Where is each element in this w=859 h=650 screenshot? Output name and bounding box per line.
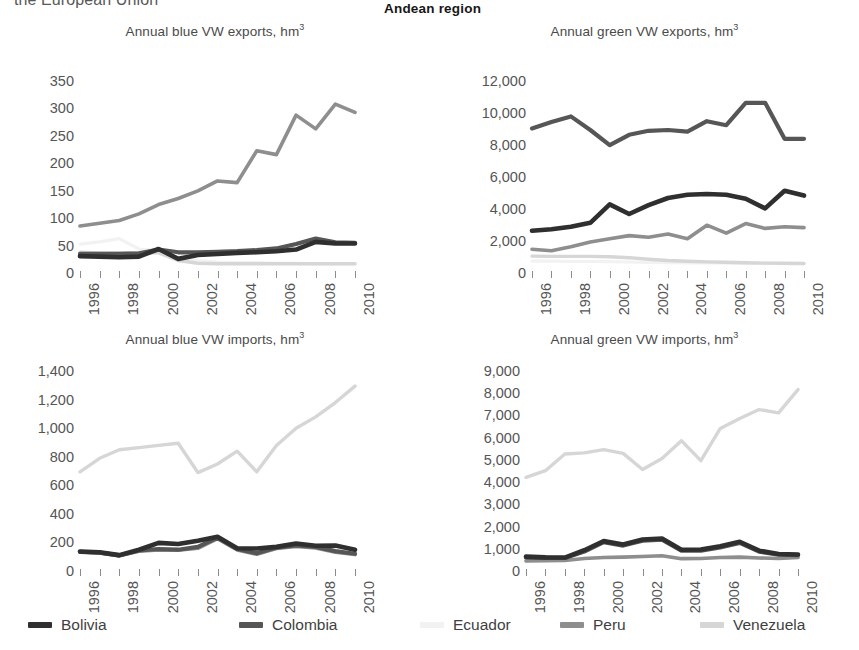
x-axis-tick: [80, 569, 81, 576]
x-axis-tick: [80, 271, 81, 278]
x-axis-year-label: 1996: [86, 581, 102, 613]
x-axis-year-label: 2008: [322, 283, 338, 315]
plot-area-green-exports: [532, 74, 804, 266]
x-axis-ticks-green-exports: [532, 271, 804, 280]
x-axis-tick: [687, 271, 688, 278]
x-axis-year-label: 2008: [771, 283, 787, 315]
x-axis-year-label: 2000: [616, 283, 632, 315]
x-axis-tick: [100, 271, 101, 278]
x-axis-tick: [740, 569, 741, 576]
x-axis-tick: [316, 271, 317, 278]
x-axis-year-label: 2006: [282, 581, 298, 613]
series-line-venezuela: [80, 386, 355, 472]
legend-item-venezuela[interactable]: Venezuela: [700, 616, 805, 634]
x-axis-tick: [296, 569, 297, 576]
x-axis-year-label: 2008: [765, 581, 781, 613]
x-axis-year-label: 1998: [577, 283, 593, 315]
x-axis-tick: [139, 569, 140, 576]
chart-title-blue-imports: Annual blue VW imports, hm3: [0, 330, 430, 347]
x-axis-tick: [662, 569, 663, 576]
x-axis-tick: [565, 569, 566, 576]
legend-label: Ecuador: [453, 616, 511, 634]
chart-page: the European Union Andean region Annual …: [0, 0, 859, 650]
x-axis-tick: [198, 569, 199, 576]
unit-superscript: 3: [733, 330, 738, 340]
x-axis-year-label: 2008: [322, 581, 338, 613]
x-axis-tick: [532, 271, 533, 278]
series-line-colombia: [532, 103, 804, 145]
x-axis-tick: [316, 569, 317, 576]
x-axis-year-label: 2000: [610, 581, 626, 613]
x-axis-tick: [649, 271, 650, 278]
x-axis-tick: [257, 271, 258, 278]
plot-area-blue-imports: [80, 364, 355, 564]
chart-legend: BoliviaColombiaEcuadorPeruVenezuela: [0, 616, 859, 646]
legend-swatch-icon: [560, 622, 584, 628]
x-axis-tick: [785, 271, 786, 278]
x-axis-year-label: 2002: [204, 283, 220, 315]
x-axis-year-label: 2000: [165, 581, 181, 613]
x-axis-tick: [804, 271, 805, 278]
x-axis-ticks-green-imports: [526, 569, 798, 578]
legend-label: Colombia: [272, 616, 337, 634]
x-axis-tick: [218, 569, 219, 576]
series-line-bolivia: [532, 191, 804, 231]
x-axis-tick: [590, 271, 591, 278]
series-line-venezuela: [526, 390, 798, 478]
x-axis-year-label: 2006: [282, 283, 298, 315]
x-axis-year-label: 2004: [687, 581, 703, 613]
legend-item-peru[interactable]: Peru: [560, 616, 626, 634]
unit-superscript: 3: [299, 22, 304, 32]
x-axis-year-label: 1998: [125, 581, 141, 613]
x-axis-tick: [668, 271, 669, 278]
y-axis-labels-blue-exports: 350300250200150100500: [8, 74, 74, 266]
x-axis-tick: [159, 569, 160, 576]
x-axis-tick: [119, 271, 120, 278]
legend-label: Peru: [593, 616, 626, 634]
y-axis-labels-blue-imports: 1,4001,2001,0008006004002000: [4, 364, 74, 564]
legend-item-colombia[interactable]: Colombia: [239, 616, 337, 634]
x-axis-tick: [720, 569, 721, 576]
x-axis-tick: [355, 271, 356, 278]
x-axis-tick: [610, 271, 611, 278]
x-axis-year-label: 2002: [204, 581, 220, 613]
x-axis-tick: [551, 271, 552, 278]
x-axis-tick: [296, 271, 297, 278]
x-axis-tick: [119, 569, 120, 576]
legend-item-bolivia[interactable]: Bolivia: [28, 616, 107, 634]
x-axis-tick: [779, 569, 780, 576]
legend-label: Venezuela: [733, 616, 805, 634]
series-line-peru: [80, 104, 355, 226]
legend-label: Bolivia: [61, 616, 107, 634]
x-axis-tick: [139, 271, 140, 278]
x-axis-tick: [584, 569, 585, 576]
x-axis-tick: [355, 569, 356, 576]
x-axis-tick: [571, 271, 572, 278]
x-axis-tick: [276, 569, 277, 576]
page-header-region-title: Andean region: [384, 1, 481, 16]
x-axis-year-label: 1996: [86, 283, 102, 315]
x-axis-tick: [178, 569, 179, 576]
x-axis-year-label: 1998: [571, 581, 587, 613]
x-axis-tick: [726, 271, 727, 278]
legend-swatch-icon: [420, 622, 444, 628]
x-axis-year-label: 2006: [732, 283, 748, 315]
chart-title-green-imports: Annual green VW imports, hm3: [430, 330, 859, 347]
x-axis-ticks-blue-imports: [80, 569, 355, 578]
x-axis-year-label: 2004: [243, 283, 259, 315]
chart-panel-blue-exports: Annual blue VW exports, hm33503002502001…: [0, 22, 430, 322]
legend-swatch-icon: [239, 622, 263, 628]
x-axis-tick: [218, 271, 219, 278]
x-axis-tick: [335, 271, 336, 278]
x-axis-tick: [526, 569, 527, 576]
y-axis-labels-green-imports: 9,0008,0007,0006,0005,0004,0003,0002,000…: [432, 364, 520, 564]
x-axis-year-label: 2010: [361, 283, 377, 315]
x-axis-tick: [100, 569, 101, 576]
x-axis-tick: [643, 569, 644, 576]
x-axis-ticks-blue-exports: [80, 271, 355, 280]
x-axis-year-label: 2002: [649, 581, 665, 613]
x-axis-year-label: 2010: [361, 581, 377, 613]
x-axis-tick: [707, 271, 708, 278]
legend-item-ecuador[interactable]: Ecuador: [420, 616, 511, 634]
x-axis-tick: [681, 569, 682, 576]
